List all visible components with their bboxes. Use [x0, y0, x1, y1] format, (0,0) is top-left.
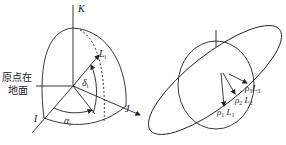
label-i: I — [34, 114, 37, 124]
earth-circle — [178, 41, 254, 129]
label-j: J — [125, 104, 129, 114]
meridian-right — [73, 28, 126, 106]
diagram-canvas — [0, 0, 286, 145]
label-rho1-l1: ρ1 L1 — [217, 108, 235, 118]
label-rho2-l2: ρ2 L2 — [235, 96, 253, 106]
dashed-meridian — [80, 30, 104, 122]
origin-note-line1: 原点在 — [2, 72, 32, 84]
rho3-vector — [229, 74, 247, 83]
orbit-ellipse — [134, 9, 286, 145]
label-alpha-i: αi — [64, 116, 71, 127]
left-celestial-sphere — [32, 5, 140, 133]
right-orbit-figure — [134, 9, 286, 145]
j-axis — [73, 86, 140, 115]
rho1-vector — [221, 73, 224, 106]
label-rho3-l3: ρ3L3 — [245, 84, 260, 94]
alpha-arc — [54, 108, 92, 113]
label-delta-i: δi — [82, 78, 88, 89]
label-l-i: Li — [99, 49, 106, 60]
origin-note-line2: 地面 — [8, 85, 28, 97]
delta-arc — [91, 65, 97, 113]
label-k: K — [78, 4, 85, 14]
meridian-left — [42, 28, 73, 118]
